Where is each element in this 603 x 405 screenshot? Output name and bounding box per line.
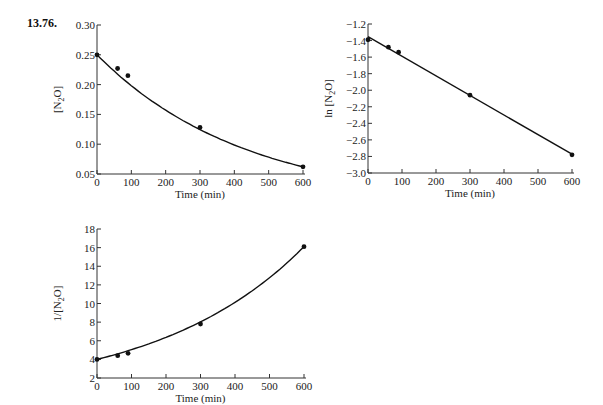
data-point <box>198 125 203 130</box>
y-tick-label: 0.25 <box>76 49 96 61</box>
x-tick-label: 400 <box>227 380 244 392</box>
y-tick-label: 10 <box>84 298 96 310</box>
data-point <box>386 45 391 50</box>
y-tick-label: −3.0 <box>346 167 366 179</box>
y-axis-label: 1/[N2O] <box>51 286 66 322</box>
data-point <box>126 351 131 356</box>
data-point <box>115 66 120 71</box>
x-tick-label: 200 <box>158 380 175 392</box>
y-tick-label: 18 <box>84 223 96 235</box>
chart-1: 0.050.100.150.200.250.300100200300400500… <box>51 19 312 201</box>
x-tick-label: 300 <box>462 175 479 187</box>
x-tick-label: 100 <box>123 176 140 188</box>
data-point <box>95 357 100 362</box>
data-point <box>366 37 371 42</box>
y-tick-label: 0.05 <box>76 168 96 180</box>
y-tick-label: 0.30 <box>76 19 96 31</box>
y-axis-label: [N2O] <box>51 86 66 113</box>
data-point <box>95 52 100 57</box>
x-tick-label: 500 <box>260 176 277 188</box>
x-tick-label: 200 <box>157 176 174 188</box>
y-axis-label: ln [N2O] <box>322 79 337 118</box>
data-point <box>301 164 306 169</box>
x-tick-label: 0 <box>94 380 100 392</box>
fit-line <box>97 55 303 167</box>
y-tick-label: −2.0 <box>346 84 366 96</box>
fit-line <box>97 247 304 360</box>
data-point <box>302 244 307 249</box>
x-tick-label: 600 <box>296 380 313 392</box>
data-point <box>126 73 131 78</box>
y-tick-label: −2.6 <box>346 134 366 146</box>
x-axis-label: Time (min) <box>175 392 225 405</box>
y-tick-label: −1.8 <box>346 68 366 80</box>
y-tick-label: −2.8 <box>346 150 366 162</box>
x-tick-label: 100 <box>123 380 140 392</box>
x-tick-label: 100 <box>394 175 411 187</box>
y-tick-label: −2.4 <box>346 117 366 129</box>
x-tick-label: 0 <box>365 175 371 187</box>
data-point <box>115 353 120 358</box>
y-tick-label: 14 <box>84 260 96 272</box>
y-tick-label: −1.2 <box>346 18 366 30</box>
x-tick-label: 200 <box>428 175 445 187</box>
chart-2: −1.2−1.4−1.6−1.8−2.0−2.2−2.4−2.6−2.8−3.0… <box>322 18 581 200</box>
y-tick-label: 0.20 <box>76 79 96 91</box>
data-point <box>570 152 575 157</box>
y-tick-label: 0.10 <box>76 138 96 150</box>
chart-3: 246810121416180100200300400500600Time (m… <box>51 223 313 405</box>
x-axis-label: Time (min) <box>175 188 225 201</box>
x-tick-label: 600 <box>564 175 581 187</box>
x-tick-label: 500 <box>261 380 278 392</box>
data-point <box>468 93 473 98</box>
x-tick-label: 300 <box>192 176 209 188</box>
y-tick-label: 4 <box>90 353 96 365</box>
y-tick-label: 0.15 <box>76 108 96 120</box>
x-tick-label: 300 <box>192 380 209 392</box>
data-point <box>396 50 401 55</box>
x-tick-label: 400 <box>496 175 513 187</box>
y-tick-label: 8 <box>90 316 96 328</box>
y-tick-label: 16 <box>84 242 96 254</box>
x-axis-label: Time (min) <box>445 187 495 200</box>
x-tick-label: 500 <box>530 175 547 187</box>
figure-canvas: 0.050.100.150.200.250.300100200300400500… <box>0 0 603 405</box>
y-tick-label: 12 <box>84 279 95 291</box>
x-tick-label: 600 <box>295 176 312 188</box>
x-tick-label: 0 <box>94 176 100 188</box>
x-tick-label: 400 <box>226 176 243 188</box>
y-tick-label: −2.2 <box>346 101 366 113</box>
data-point <box>198 322 203 327</box>
y-tick-label: −1.4 <box>346 35 366 47</box>
y-tick-label: 6 <box>90 335 96 347</box>
y-tick-label: −1.6 <box>346 51 366 63</box>
